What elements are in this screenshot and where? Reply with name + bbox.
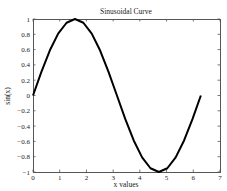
plot-area: 01234567−1−0.8−0.6−0.4−0.200.20.40.60.81 xyxy=(17,16,222,183)
y-tick-label: 0.4 xyxy=(21,61,30,69)
x-tick-label: 0 xyxy=(31,174,35,182)
y-axis-label: sin(x) xyxy=(3,87,12,105)
sinusoidal-chart: Sinusoidal Curve 01234567−1−0.8−0.6−0.4−… xyxy=(0,0,227,191)
y-tick-label: 1 xyxy=(27,16,31,24)
x-tick-label: 4 xyxy=(138,174,142,182)
y-tick-label: −0.6 xyxy=(17,138,30,146)
y-tick-label: −1 xyxy=(23,169,31,177)
y-tick-label: −0.2 xyxy=(17,107,30,115)
x-axis-label: x values xyxy=(114,180,139,189)
y-tick-label: 0.6 xyxy=(21,46,30,54)
y-tick-label: 0.8 xyxy=(21,31,30,39)
sine-curve-line xyxy=(33,19,201,172)
y-tick-label: −0.4 xyxy=(17,123,30,131)
x-tick-label: 6 xyxy=(192,174,196,182)
axes-frame xyxy=(34,20,221,173)
y-tick-label: −0.8 xyxy=(17,153,30,161)
y-tick-label: 0 xyxy=(27,92,31,100)
chart-title: Sinusoidal Curve xyxy=(100,7,153,16)
x-tick-label: 2 xyxy=(85,174,89,182)
x-tick-label: 7 xyxy=(218,174,222,182)
x-tick-label: 5 xyxy=(165,174,169,182)
x-tick-label: 1 xyxy=(58,174,62,182)
y-tick-label: 0.2 xyxy=(21,77,30,85)
